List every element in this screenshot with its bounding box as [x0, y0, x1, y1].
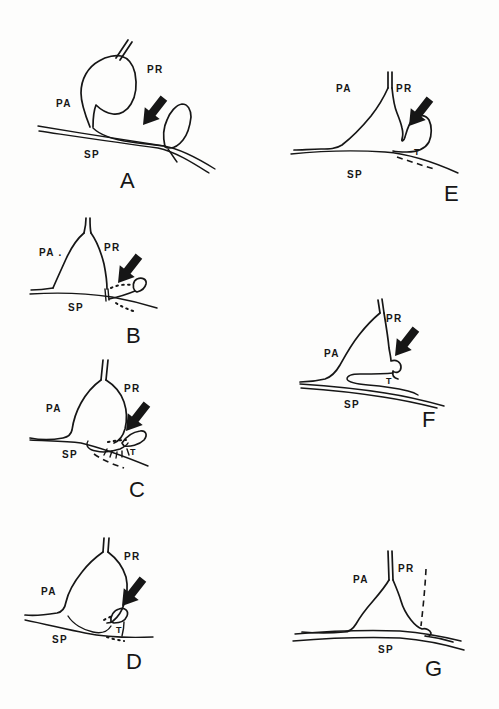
label-sp: SP — [68, 302, 84, 313]
label-sp: SP — [62, 449, 78, 460]
panel-d: PA PR SP T D — [25, 538, 153, 674]
pr-stalk — [378, 299, 384, 313]
label-pa: PA . — [39, 247, 63, 258]
label-pr: PR — [147, 64, 164, 75]
dotted-below — [116, 303, 137, 312]
label-pr: PR — [398, 563, 415, 574]
gland-outline — [302, 580, 453, 642]
dashed-line — [397, 157, 434, 169]
t-wing — [122, 431, 146, 446]
gland-outline — [300, 313, 380, 382]
panel-g: PA PR SP G — [293, 551, 464, 681]
label-t: T — [130, 447, 136, 457]
label-pa: PA — [56, 98, 72, 109]
panel-e: PA PR SP T E — [291, 72, 459, 206]
pr-stalk — [388, 72, 392, 88]
dotted-arc — [111, 285, 132, 288]
label-t: T — [386, 376, 392, 386]
pr-stalk — [103, 538, 109, 552]
panel-letter-a: A — [120, 168, 135, 193]
label-pa: PA — [41, 586, 57, 597]
pr-stalk — [388, 551, 393, 580]
label-sp: SP — [347, 169, 363, 180]
gland-outline — [294, 88, 388, 150]
sp-line — [291, 151, 458, 173]
label-sp: SP — [344, 399, 360, 410]
label-pa: PA — [46, 403, 62, 414]
label-sp: SP — [378, 644, 394, 655]
panel-f: PA PR SP T F — [300, 299, 444, 432]
panel-c: PA PR SP T C — [30, 360, 154, 502]
label-pr: PR — [396, 83, 413, 94]
label-pr: PR — [104, 242, 121, 253]
pointer-arrow — [388, 323, 424, 361]
vesicle-tail — [168, 149, 177, 162]
dashed-vertical — [421, 569, 426, 626]
panel-letter-c: C — [129, 477, 145, 502]
label-t: T — [414, 147, 420, 157]
gland-outline — [53, 233, 107, 289]
sp-line — [25, 620, 153, 637]
pointer-arrow — [136, 92, 172, 130]
loop-tail — [122, 622, 124, 636]
panel-letter-f: F — [422, 407, 435, 432]
sp-line — [30, 293, 157, 308]
pointer-arrow — [115, 573, 151, 611]
label-pa: PA — [324, 348, 340, 359]
pr-stalk — [84, 218, 91, 233]
panel-letter-d: D — [126, 649, 142, 674]
panel-a: PA PR SP A — [38, 40, 215, 193]
label-t: T — [116, 625, 122, 635]
left-foot-line — [31, 288, 53, 290]
panel-b: PA . PR SP B — [30, 218, 157, 348]
anatomy-figure: PA PR SP A PA . PR SP B PA PR SP T C — [0, 0, 499, 709]
panel-letter-b: B — [126, 323, 141, 348]
label-pr: PR — [386, 313, 403, 324]
panel-letter-g: G — [425, 656, 442, 681]
label-pr: PR — [124, 551, 141, 562]
gland-outline — [30, 380, 126, 443]
t-fold — [347, 373, 418, 395]
label-pa: PA — [336, 83, 352, 94]
gland-outline — [81, 56, 136, 127]
dashed-arc — [94, 454, 124, 468]
sp-line-upper — [38, 126, 215, 169]
panel-letter-e: E — [444, 181, 459, 206]
vesicle-outline — [164, 104, 191, 148]
pointer-arrow — [402, 93, 438, 131]
label-pr: PR — [124, 383, 141, 394]
small-loop — [133, 278, 146, 292]
pr-stalk — [101, 360, 108, 380]
figure-canvas: PA PR SP A PA . PR SP B PA PR SP T C — [0, 0, 499, 709]
pointer-arrow — [111, 250, 147, 288]
label-sp: SP — [52, 634, 68, 645]
label-sp: SP — [84, 149, 100, 160]
label-pa: PA — [353, 574, 369, 585]
